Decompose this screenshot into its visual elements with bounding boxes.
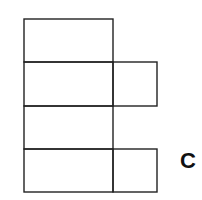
rect-4 [24,149,113,192]
side-flap-upper [113,62,157,106]
side-flap-lower [113,149,157,192]
net-diagram [0,0,202,200]
rect-1 [24,19,113,62]
rect-3 [24,106,113,149]
diagram-label: C [180,150,196,172]
rect-2 [24,62,113,106]
